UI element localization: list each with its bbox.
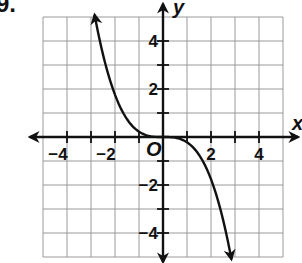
x-tick-label: −4 <box>48 145 68 164</box>
x-tick-label: 2 <box>206 145 215 164</box>
origin-label: O <box>146 138 162 160</box>
y-tick-label: 4 <box>149 32 159 51</box>
x-tick-label: −2 <box>96 145 115 164</box>
axes <box>30 4 298 262</box>
y-tick-label: −2 <box>139 176 158 195</box>
y-tick-label: 2 <box>149 80 158 99</box>
y-axis-label: y <box>172 0 185 18</box>
x-axis-label: x <box>291 112 302 134</box>
x-tick-label: 4 <box>254 145 264 164</box>
coordinate-plane-chart: −4−22442−2−4 x y O <box>0 0 302 263</box>
y-tick-label: −4 <box>139 224 159 243</box>
